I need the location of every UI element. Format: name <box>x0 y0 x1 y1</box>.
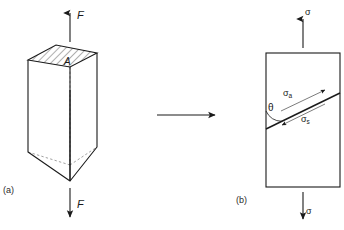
area-label: A <box>64 57 71 67</box>
figure-container: F F A (a) (b) σ σ σa σs θ <box>0 0 344 230</box>
panel-b-caption: (b) <box>236 196 247 205</box>
force-label-bottom: F <box>77 199 84 210</box>
prism-hidden-edges <box>28 67 97 165</box>
normal-stress-subscript: a <box>289 92 293 99</box>
shear-stress-symbol: σ <box>301 114 307 124</box>
angle-label: θ <box>268 103 274 113</box>
stress-label-top: σ <box>305 8 311 17</box>
shear-stress-label: σs <box>301 115 310 124</box>
shear-stress-subscript: s <box>307 118 310 125</box>
normal-stress-label: σa <box>283 89 292 98</box>
prism-visible-edges <box>28 53 97 181</box>
panel-a-caption: (a) <box>3 186 14 195</box>
normal-stress-symbol: σ <box>283 88 289 98</box>
stress-label-bottom: σ <box>306 207 312 216</box>
figure-drawing <box>0 0 344 230</box>
panel-a-group <box>28 13 97 217</box>
force-label-top: F <box>77 10 84 21</box>
cross-section-area <box>28 45 97 67</box>
